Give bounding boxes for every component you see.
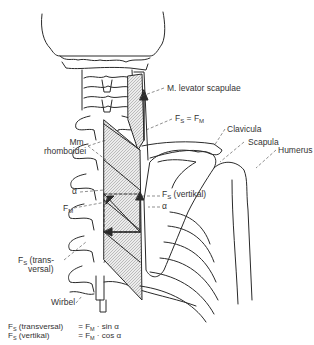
label-fs-transversal: FS (trans-versal) [18,256,54,274]
label-wirbel: Wirbel [51,298,75,307]
label-fs-vertikal: FS (vertikal) [162,190,206,199]
label-humerus: Humerus [278,146,312,155]
label-clavicula: Clavicula [227,125,262,134]
label-levator-scapulae: M. levator scapulae [167,84,241,93]
formula-transversal: FS (transversal) = FM · sin α [8,322,121,331]
label-alpha-right: α [162,202,167,211]
label-scapula: Scapula [248,138,279,147]
humerus [214,162,252,304]
formula-block: FS (transversal) = FM · sin α FS (vertik… [8,322,121,340]
label-fm: FM [63,204,73,213]
label-rhomboidei: Mm.rhomboidei [44,138,86,156]
formula-vertikal: FS (vertikal) = FM · cos α [8,331,121,340]
skull [41,12,164,56]
label-alpha-left: α [72,187,77,196]
anatomy-drawing [0,0,314,345]
label-fs-equals-fm: FS = FM [175,114,204,123]
